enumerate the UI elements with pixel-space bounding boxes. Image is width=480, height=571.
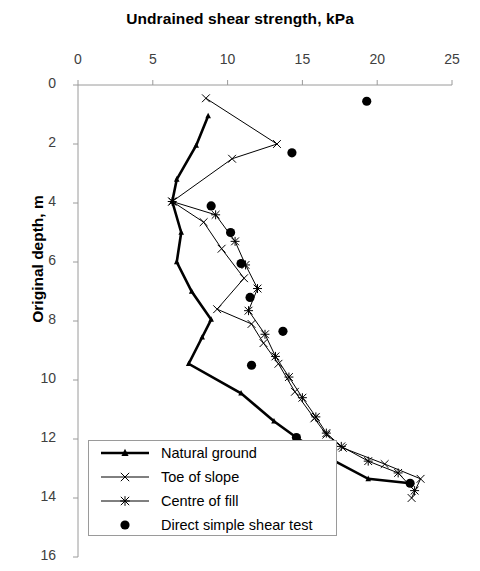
x-tick-label: 0	[58, 51, 98, 67]
asterisk-marker	[337, 442, 346, 451]
asterisk-marker	[168, 197, 177, 206]
triangle-legend-icon	[97, 441, 157, 465]
series-direct-simple-shear-test	[207, 97, 415, 488]
asterisk-marker	[271, 352, 280, 361]
legend-item-toe-of-slope[interactable]: Toe of slope	[89, 465, 336, 489]
chart-root: Undrained shear strength, kPa Original d…	[0, 0, 480, 571]
y-tick-label: 4	[0, 193, 56, 209]
asterisk-marker	[253, 284, 262, 293]
x-tick-label: 20	[357, 51, 397, 67]
legend-label: Centre of fill	[161, 493, 238, 509]
chart-legend: Natural groundToe of slopeCentre of fill…	[88, 440, 337, 536]
legend-item-natural-ground[interactable]: Natural ground	[89, 441, 336, 465]
y-tick-label: 12	[0, 429, 56, 445]
asterisk-marker	[231, 237, 240, 246]
asterisk-marker	[311, 412, 320, 421]
asterisk-marker	[394, 468, 403, 477]
circle-marker	[120, 520, 129, 529]
legend-item-direct-simple-shear-test[interactable]: Direct simple shear test	[89, 513, 336, 537]
asterisk-marker	[211, 210, 220, 219]
circle-marker	[287, 148, 296, 157]
circle-marker	[406, 479, 415, 488]
asterisk-marker	[298, 393, 307, 402]
circle-marker	[226, 228, 235, 237]
x-marker	[213, 305, 221, 313]
x-marker	[240, 274, 248, 282]
y-tick-label: 8	[0, 311, 56, 327]
asterisk-marker	[364, 457, 373, 466]
x-legend-icon	[97, 465, 157, 489]
x-tick-label: 10	[208, 51, 248, 67]
x-marker	[200, 218, 208, 226]
legend-label: Direct simple shear test	[161, 517, 313, 533]
asterisk-marker	[322, 429, 331, 438]
asterisk-legend-icon	[97, 489, 157, 513]
legend-item-centre-of-fill[interactable]: Centre of fill	[89, 489, 336, 513]
y-tick-label: 16	[0, 547, 56, 563]
x-marker	[408, 494, 416, 502]
x-marker	[417, 475, 425, 483]
asterisk-marker	[244, 306, 253, 315]
x-marker	[291, 388, 299, 396]
circle-legend-icon	[97, 513, 157, 537]
series-natural-ground	[169, 113, 412, 486]
asterisk-marker	[120, 496, 130, 506]
circle-marker	[247, 361, 256, 370]
y-tick-label: 2	[0, 134, 56, 150]
x-marker	[260, 339, 268, 347]
y-tick-label: 0	[0, 75, 56, 91]
x-tick-label: 25	[432, 51, 472, 67]
x-marker	[218, 245, 226, 253]
circle-marker	[362, 97, 371, 106]
asterisk-marker	[261, 330, 270, 339]
circle-marker	[278, 327, 287, 336]
x-tick-label: 15	[282, 51, 322, 67]
y-tick-label: 6	[0, 252, 56, 268]
x-marker	[202, 94, 210, 102]
legend-label: Toe of slope	[161, 469, 239, 485]
circle-marker	[245, 293, 254, 302]
x-marker	[228, 155, 236, 163]
series-line	[172, 116, 410, 483]
circle-marker	[236, 259, 245, 268]
circle-marker	[207, 201, 216, 210]
asterisk-marker	[284, 373, 293, 382]
x-tick-label: 5	[133, 51, 173, 67]
y-tick-label: 10	[0, 370, 56, 386]
y-tick-label: 14	[0, 488, 56, 504]
x-marker	[248, 320, 256, 328]
triangle-marker	[174, 259, 180, 265]
x-marker	[273, 140, 281, 148]
legend-label: Natural ground	[161, 445, 257, 461]
triangle-marker	[205, 113, 211, 119]
